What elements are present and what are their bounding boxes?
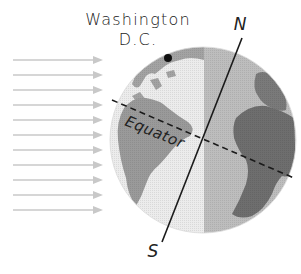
sun-ray-arrow-icon: [13, 86, 103, 94]
sun-ray-arrow-icon: [13, 206, 103, 214]
washington-dc-marker: [164, 54, 172, 62]
north-pole-label: N: [234, 14, 247, 34]
sun-ray-arrow-icon: [13, 116, 103, 124]
sun-ray-arrow-icon: [13, 161, 103, 169]
sun-ray-arrow-icon: [13, 146, 103, 154]
south-pole-label: S: [148, 241, 159, 261]
sun-ray-arrow-icon: [13, 176, 103, 184]
sun-rays: [13, 56, 103, 214]
sun-ray-arrow-icon: [13, 131, 103, 139]
sun-ray-arrow-icon: [13, 191, 103, 199]
diagram-canvas: Washington D.C. Equator N S: [0, 0, 301, 274]
sun-ray-arrow-icon: [13, 56, 103, 64]
globe: [100, 38, 301, 242]
sun-ray-arrow-icon: [13, 101, 103, 109]
city-label-line1: Washington: [85, 10, 190, 29]
sun-ray-arrow-icon: [13, 71, 103, 79]
seasons-diagram: Washington D.C. Equator N S: [0, 0, 301, 274]
city-label-line2: D.C.: [119, 30, 157, 49]
